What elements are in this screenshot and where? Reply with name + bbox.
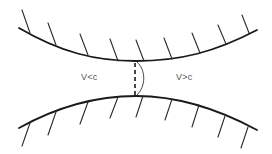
top-wall [19,10,257,61]
bottom-wall [19,96,257,148]
supersonic-label: V>c [176,72,192,82]
nozzle-diagram [0,0,272,154]
subsonic-label: V<c [81,72,97,82]
throat-arc [137,62,144,95]
bottom-wall-hatching [22,96,248,148]
throat [135,62,144,95]
top-wall-hatching [22,10,249,61]
